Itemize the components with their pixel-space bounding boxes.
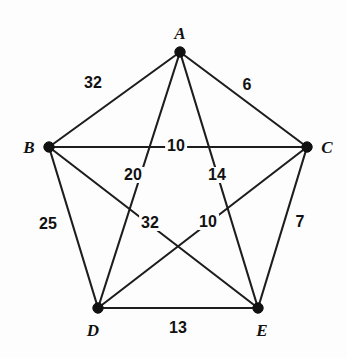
edge-weight-ce: 7: [294, 214, 307, 230]
edge-weight-ad: 20: [122, 167, 144, 183]
edge-weight-cd: 10: [197, 214, 219, 230]
edge-weight-ac: 6: [241, 77, 254, 93]
graph-edge-ab: [49, 52, 180, 147]
edge-weight-bc: 10: [165, 138, 187, 154]
graph-figure: ABCDE326201410253210713: [0, 0, 347, 358]
graph-node-d: [93, 303, 103, 313]
vertex-label-a: A: [174, 25, 185, 42]
graph-node-a: [175, 47, 185, 57]
vertex-label-d: D: [87, 322, 99, 339]
edge-weight-ae: 14: [206, 167, 228, 183]
graph-node-c: [302, 142, 312, 152]
graph-node-e: [253, 303, 263, 313]
vertex-label-e: E: [256, 322, 267, 339]
edge-weight-be: 32: [139, 215, 161, 231]
edge-weight-bd: 25: [37, 216, 59, 232]
graph-canvas: [0, 0, 347, 358]
vertex-label-c: C: [321, 139, 332, 156]
graph-edge-ac: [180, 52, 307, 147]
graph-node-b: [44, 142, 54, 152]
edge-weight-ab: 32: [82, 75, 104, 91]
edge-weight-de: 13: [167, 320, 189, 336]
vertex-label-b: B: [23, 139, 34, 156]
